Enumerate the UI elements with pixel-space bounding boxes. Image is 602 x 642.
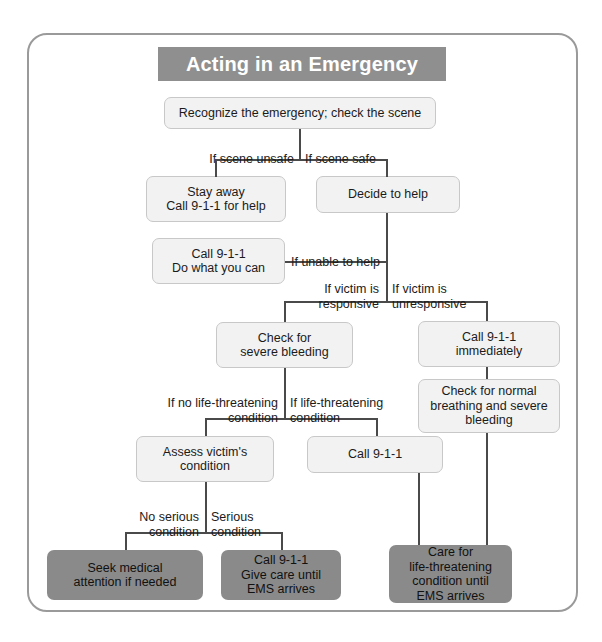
node-recognize-emergency: Recognize the emergency; check the scene [164, 97, 436, 129]
node-check-normal-breathing-label: Check for normal breathing and severe bl… [430, 384, 547, 428]
edge-label-life-threatening: If life-threatening condition [290, 381, 415, 426]
edge-label-scene-unsafe: If scene unsafe [186, 137, 294, 167]
node-decide-to-help: Decide to help [316, 176, 460, 213]
edge-label-no-life-threatening: If no life-threatening condition [135, 381, 278, 426]
edge-label-no-serious-text: No serious condition [139, 510, 199, 539]
node-care-life-threatening: Care for life-threatening condition unti… [389, 545, 512, 603]
node-call-give-care-label: Call 9-1-1 Give care until EMS arrives [241, 553, 321, 597]
edge-label-serious-text: Serious condition [211, 510, 261, 539]
edge-label-scene-safe: If scene safe [305, 137, 415, 167]
edge-label-serious: Serious condition [211, 495, 301, 540]
node-care-life-threatening-label: Care for life-threatening condition unti… [409, 545, 492, 603]
node-recognize-emergency-label: Recognize the emergency; check the scene [179, 106, 422, 121]
edge-label-scene-unsafe-text: If scene unsafe [209, 152, 294, 166]
node-stay-away-label: Stay away Call 9-1-1 for help [166, 185, 265, 214]
node-call-immediately: Call 9-1-1 immediately [418, 321, 560, 367]
edge-label-no-serious: No serious condition [114, 495, 199, 540]
edge-label-scene-safe-text: If scene safe [305, 152, 376, 166]
node-call-do-what-you-can: Call 9-1-1 Do what you can [152, 238, 285, 284]
edge-label-victim-responsive: If victim is responsive [283, 267, 379, 312]
node-call-911: Call 9-1-1 [307, 436, 443, 473]
node-call-911-label: Call 9-1-1 [348, 447, 402, 462]
edge-label-life-threatening-text: If life-threatening condition [290, 396, 383, 425]
node-check-severe-bleeding-label: Check for severe bleeding [240, 331, 328, 360]
node-seek-medical-attention: Seek medical attention if needed [47, 550, 203, 600]
node-decide-to-help-label: Decide to help [348, 187, 428, 202]
connector-call-immediately-to-breathing [486, 367, 488, 379]
edge-label-victim-unresponsive-text: If victim is unresponsive [392, 282, 466, 311]
flowchart-page: Acting in an Emergency Recognize the eme… [0, 0, 602, 642]
edge-label-no-life-threatening-text: If no life-threatening condition [168, 396, 279, 425]
edge-label-victim-responsive-text: If victim is responsive [319, 282, 379, 311]
connector-severe-bleeding-stem [284, 368, 286, 418]
node-assess-condition: Assess victim's condition [136, 436, 274, 482]
node-call-give-care: Call 9-1-1 Give care until EMS arrives [221, 550, 341, 600]
connector-recognize-stem [299, 129, 301, 159]
node-stay-away: Stay away Call 9-1-1 for help [146, 176, 286, 222]
edge-label-victim-unresponsive: If victim is unresponsive [392, 267, 502, 312]
node-check-normal-breathing: Check for normal breathing and severe bl… [418, 379, 560, 433]
node-call-immediately-label: Call 9-1-1 immediately [456, 330, 523, 359]
connector-assess-condition-stem [205, 482, 207, 532]
connector-call-911-to-care [418, 473, 420, 545]
diagram-title-banner: Acting in an Emergency [158, 47, 446, 81]
node-assess-condition-label: Assess victim's condition [163, 445, 247, 474]
diagram-title-text: Acting in an Emergency [186, 53, 418, 76]
node-check-severe-bleeding: Check for severe bleeding [216, 322, 353, 368]
edge-label-unable-to-help: If unable to help [291, 240, 411, 270]
connector-breathing-to-care [486, 433, 488, 545]
node-seek-medical-attention-label: Seek medical attention if needed [74, 561, 177, 590]
node-call-do-what-you-can-label: Call 9-1-1 Do what you can [172, 247, 265, 276]
